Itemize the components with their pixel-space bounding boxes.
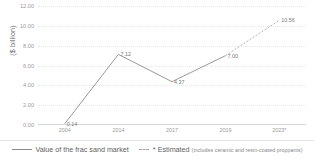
x-axis-tick-label: 2014 — [112, 127, 124, 133]
y-axis-tick-label: 2.00 — [23, 102, 34, 108]
solid-line-icon — [12, 149, 32, 150]
data-point-label: 7.12 — [120, 51, 131, 57]
x-axis-tick-label: 2023* — [272, 127, 286, 133]
y-axis-tick-label: 6.00 — [23, 63, 34, 69]
legend-item-estimated[interactable]: * Estimated (includes ceramic and resin-… — [139, 145, 303, 154]
y-axis-tick-label: 0.00 — [23, 122, 34, 128]
data-point-label: 4.37 — [174, 79, 185, 85]
legend-label-estimated: * Estimated (includes ceramic and resin-… — [153, 145, 303, 154]
legend-item-actual[interactable]: Value of the frac sand market — [12, 145, 129, 154]
legend-label-estimated-text: * Estimated — [153, 145, 192, 154]
legend-label-estimated-note: (includes ceramic and resin-coated propp… — [192, 147, 303, 153]
x-axis-tick-label: 2004 — [59, 127, 71, 133]
plot-area: 12.0010.008.006.004.002.000.002004201420… — [38, 6, 306, 125]
x-axis-tick-label: 2019 — [220, 127, 232, 133]
data-point-label: 7.00 — [228, 53, 239, 59]
y-axis-tick-label: 10.00 — [20, 23, 34, 29]
x-axis-tick-label: 2017 — [166, 127, 178, 133]
y-axis-tick-label: 12.00 — [20, 3, 34, 9]
legend-label-actual: Value of the frac sand market — [36, 145, 129, 154]
y-axis-tick-label: 4.00 — [23, 82, 34, 88]
series-lines — [38, 6, 306, 125]
estimated-line — [226, 20, 280, 55]
frac-sand-market-line-chart: ($ billion) 12.0010.008.006.004.002.000.… — [0, 0, 314, 159]
data-point-label: 0.14 — [67, 121, 78, 127]
y-axis-title: ($ billion) — [8, 5, 17, 77]
y-axis-tick-label: 8.00 — [23, 43, 34, 49]
dashed-line-icon — [139, 149, 149, 150]
chart-legend: Value of the frac sand market * Estimate… — [0, 140, 314, 154]
data-point-label: 10.56 — [281, 17, 295, 23]
actual-line — [65, 54, 226, 123]
